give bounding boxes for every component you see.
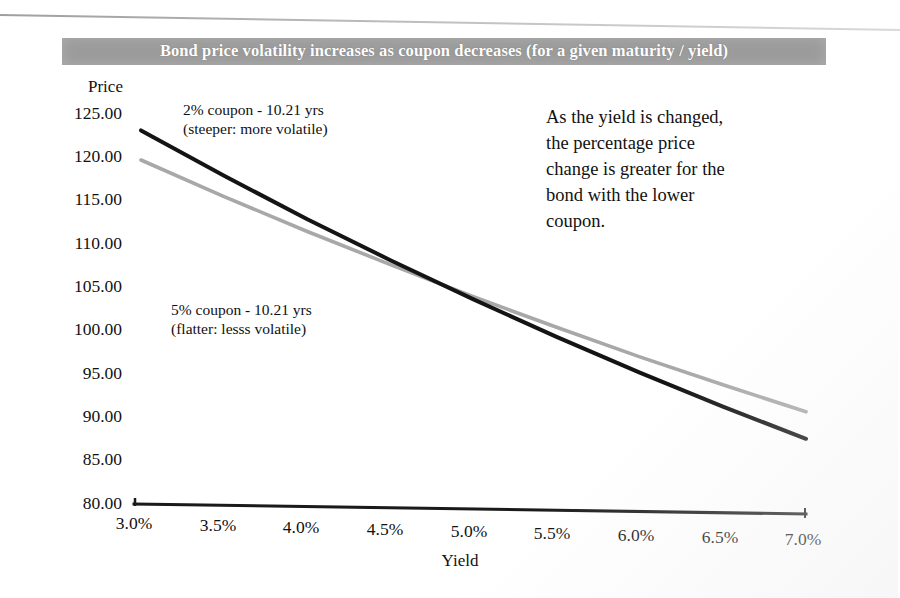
- annotation-2pct-coupon: 2% coupon - 10.21 yrs (steeper: more vol…: [183, 100, 328, 138]
- callout-line: the percentage price: [546, 130, 804, 156]
- x-axis-line: [134, 504, 806, 514]
- callout-text-block: As the yield is changed, the percentage …: [546, 104, 804, 234]
- callout-line: change is greater for the: [546, 156, 804, 182]
- annotation-5pct-coupon: 5% coupon - 10.21 yrs (flatter: lesss vo…: [171, 300, 312, 338]
- callout-line: coupon.: [546, 208, 804, 234]
- callout-line: As the yield is changed,: [546, 104, 804, 130]
- callout-line: bond with the lower: [546, 182, 804, 208]
